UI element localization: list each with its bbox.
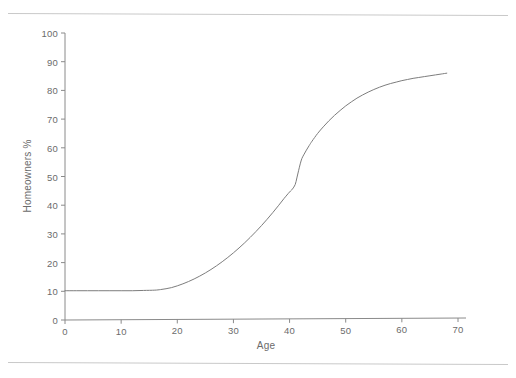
x-tick-label: 50 xyxy=(340,325,351,336)
x-tick-label: 40 xyxy=(284,325,295,336)
x-tick-label: 20 xyxy=(172,325,183,336)
data-series-line-homeowners xyxy=(65,73,447,291)
x-tick-label: 0 xyxy=(62,326,67,337)
y-tick-label: 80 xyxy=(30,85,58,96)
y-tick-label: 60 xyxy=(30,142,58,153)
y-tick-marks xyxy=(61,33,65,320)
y-tick-label: 100 xyxy=(30,28,58,39)
x-axis-title: Age xyxy=(257,340,275,351)
line-chart-plot xyxy=(0,18,516,358)
x-tick-label: 30 xyxy=(228,325,239,336)
x-tick-label: 60 xyxy=(396,324,407,335)
y-tick-label: 40 xyxy=(30,200,58,211)
page-rule-bottom xyxy=(8,362,508,365)
page-rule-top xyxy=(8,13,508,16)
x-tick-label: 10 xyxy=(116,326,127,337)
axes-group xyxy=(65,33,466,320)
y-tick-label: 30 xyxy=(30,228,58,239)
y-tick-label: 20 xyxy=(30,257,58,268)
y-tick-label: 0 xyxy=(30,315,58,326)
chart-container: 0102030405060708090100 010203040506070 H… xyxy=(0,18,516,358)
y-tick-label: 90 xyxy=(30,56,58,67)
x-axis-line xyxy=(65,318,466,320)
y-axis-title: Homeowners % xyxy=(22,140,33,213)
y-tick-label: 70 xyxy=(30,114,58,125)
x-tick-label: 70 xyxy=(453,324,464,335)
y-tick-label: 50 xyxy=(30,171,58,182)
figure-page: 0102030405060708090100 010203040506070 H… xyxy=(0,0,516,378)
y-tick-label: 10 xyxy=(30,286,58,297)
